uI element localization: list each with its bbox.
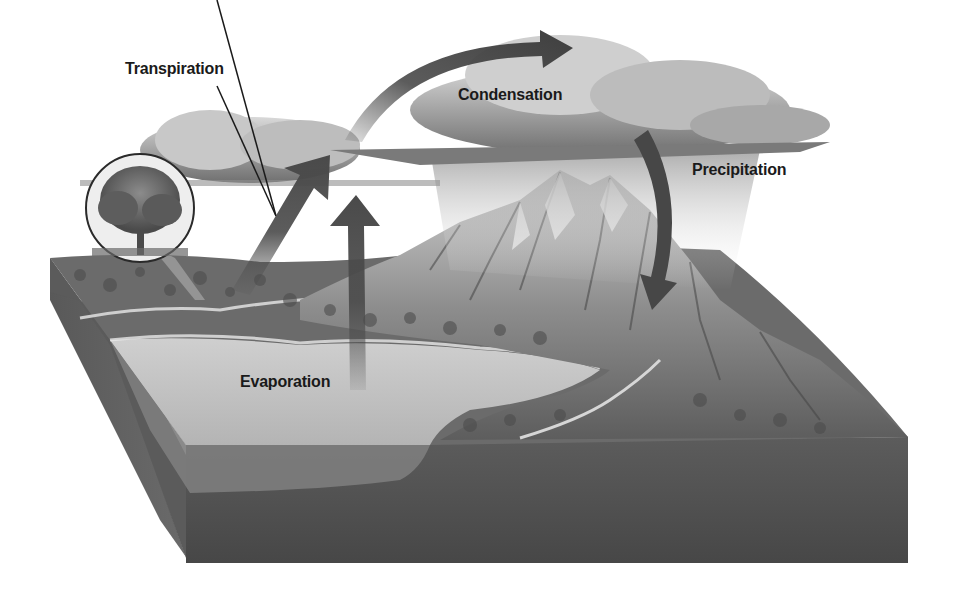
- label-condensation: Condensation: [458, 86, 562, 104]
- label-precipitation: Precipitation: [692, 161, 786, 179]
- water-cycle-diagram: Transpiration Condensation Precipitation…: [0, 0, 955, 593]
- cloud-right: [330, 35, 830, 165]
- label-transpiration: Transpiration: [125, 60, 224, 78]
- label-evaporation: Evaporation: [240, 373, 330, 391]
